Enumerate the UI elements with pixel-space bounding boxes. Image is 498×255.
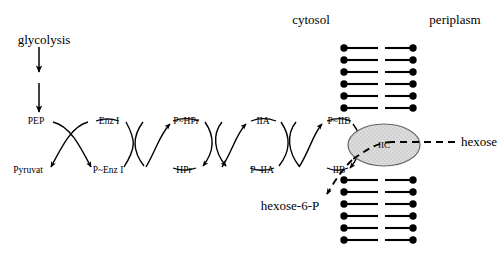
arc-p-hpr-to-hpr-down — [203, 122, 212, 166]
node-p-enz-i: P~Enz I — [93, 166, 124, 176]
arc-enz-i-to-pyruvate — [51, 122, 88, 167]
arc-cycle1-right — [124, 122, 133, 167]
lipid-row — [340, 80, 416, 87]
lipid-row — [340, 104, 416, 111]
lipid-row — [340, 188, 416, 195]
node-iia: IIA — [256, 117, 269, 127]
pathway-diagram: cytosol periplasm glycolysis PEP Pyruvat… — [0, 0, 498, 255]
compartment-label-cytosol: cytosol — [292, 13, 330, 26]
arc-cycle4-left — [290, 122, 299, 166]
lipid-row — [340, 200, 416, 207]
lipid-row — [340, 176, 416, 183]
node-p-iia: P~IIA — [250, 166, 274, 176]
node-pyruvate: Pyruvat — [13, 166, 43, 176]
node-p-hpr: P~HPr — [173, 117, 199, 127]
compartment-label-periplasm: periplasm — [429, 13, 480, 26]
node-iib: IIB — [333, 166, 346, 176]
lipid-row — [340, 236, 416, 243]
arc-pep-to-p-enz-i — [53, 122, 91, 167]
node-enz-i: Enz I — [99, 117, 119, 127]
lipid-row — [340, 56, 416, 63]
node-hpr: HPr — [176, 166, 191, 176]
lipid-row — [340, 68, 416, 75]
lipid-row — [340, 92, 416, 99]
lipid-row — [340, 44, 416, 51]
node-p-iib: P~IIB — [327, 117, 350, 127]
arc-p-iia-to-p-iib — [299, 124, 322, 167]
lipid-row — [340, 224, 416, 231]
node-pep: PEP — [28, 117, 44, 127]
hexose-6-p-label: hexose-6-P — [261, 199, 320, 212]
diagram-canvas — [0, 0, 498, 255]
arc-cycle3-right — [279, 122, 288, 166]
glycolysis-label: glycolysis — [18, 33, 71, 46]
arc-hpr-to-iia — [222, 124, 246, 167]
lipid-row — [340, 212, 416, 219]
arc-p-enz-i-to-p-hpr — [146, 124, 170, 167]
membrane-lower-leaflet — [340, 176, 416, 243]
iic-label: IIC — [378, 141, 390, 150]
hexose-label: hexose — [461, 135, 497, 148]
arc-iia-to-p-iia — [216, 122, 226, 166]
arc-cycle2-bulge-left — [135, 122, 144, 166]
membrane-upper-leaflet — [340, 44, 416, 111]
